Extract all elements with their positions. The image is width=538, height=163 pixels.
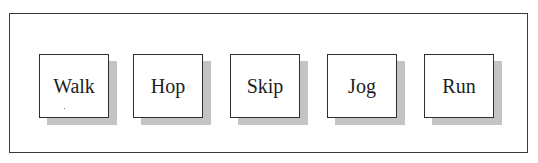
node-label: Hop <box>133 54 203 118</box>
node-hop: Hop <box>133 54 203 118</box>
node-skip: Skip <box>230 54 300 118</box>
node-label: Jog <box>327 54 397 118</box>
node-walk: Walk <box>39 54 109 118</box>
node-jog: Jog <box>327 54 397 118</box>
speck <box>64 108 65 109</box>
node-label: Skip <box>230 54 300 118</box>
node-label: Walk <box>39 54 109 118</box>
node-run: Run <box>424 54 494 118</box>
node-label: Run <box>424 54 494 118</box>
